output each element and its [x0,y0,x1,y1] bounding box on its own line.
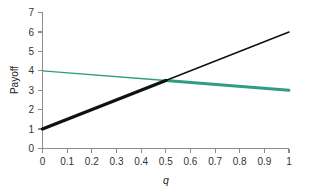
x-tick-label: 0.6 [183,156,197,167]
y-axis-title: Payoff [9,66,20,94]
x-tick-label: 0.3 [110,156,124,167]
y-tick-label: 2 [28,104,34,115]
y-tick-label: 6 [28,27,34,38]
x-tick-label: 1 [286,156,292,167]
payoff-vs-q-chart: 0 1 2 3 4 5 6 7 0 0.1 0.2 [0,0,310,191]
chart-svg: 0 1 2 3 4 5 6 7 0 0.1 0.2 [0,0,310,191]
x-tick-label: 0 [40,156,46,167]
x-tick-label: 0.2 [85,156,99,167]
y-tick-label: 1 [28,124,34,135]
y-tick-label: 4 [28,65,34,76]
x-tick-label: 0.8 [233,156,247,167]
x-axis-title: q [163,174,169,186]
x-tick-label: 0.4 [134,156,148,167]
x-tick-label: 0.9 [257,156,271,167]
x-tick-label: 0.5 [159,156,173,167]
y-tick-label: 7 [28,7,34,18]
y-tick-label: 5 [28,46,34,57]
x-tick-label: 0.1 [60,156,74,167]
y-tick-label: 3 [28,85,34,96]
y-tick-label: 0 [28,143,34,154]
x-tick-label: 0.7 [208,156,222,167]
